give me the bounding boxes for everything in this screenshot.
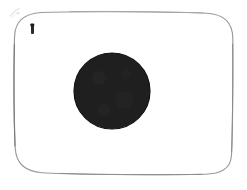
image-canvas: Hand-drawn rounded rectangular frame enc… (0, 0, 247, 190)
scanned-figure (0, 0, 247, 190)
black-filled-circle (74, 53, 150, 129)
